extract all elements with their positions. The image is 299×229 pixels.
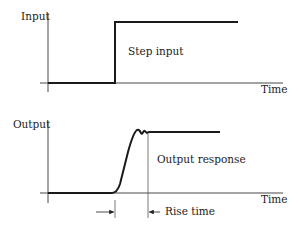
input-y-label: Input xyxy=(21,10,50,22)
step-response-diagram: Input Step input Time Output Output resp… xyxy=(0,0,299,229)
output-x-label: Time xyxy=(261,193,288,205)
output-plot: Output Output response Time Rise time xyxy=(13,118,288,218)
input-x-label: Time xyxy=(261,83,288,95)
input-plot: Input Step input Time xyxy=(21,10,288,95)
step-input-label: Step input xyxy=(128,45,184,57)
rise-time-label: Rise time xyxy=(165,205,215,217)
output-response-label: Output response xyxy=(157,153,246,165)
output-y-label: Output xyxy=(13,118,51,130)
